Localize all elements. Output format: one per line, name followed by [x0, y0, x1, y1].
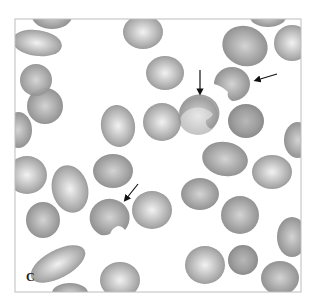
cells-layer	[4, 3, 311, 303]
arrow-icon	[126, 184, 138, 199]
bite-cell	[214, 67, 250, 101]
blood-smear-figure: C	[0, 0, 311, 303]
panel-label: C	[26, 270, 35, 285]
bite-cell	[90, 199, 130, 235]
smear-image	[0, 0, 311, 303]
arrow-icon	[257, 74, 277, 80]
